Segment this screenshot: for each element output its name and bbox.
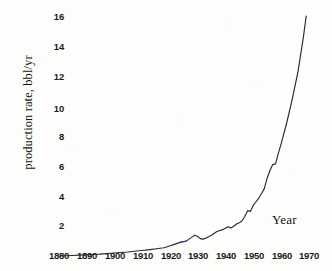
curve-svg <box>0 0 332 271</box>
figure: production rate, bbl/yr 16 14 12 10 8 6 … <box>0 0 332 271</box>
scan-artifact-segment <box>181 241 187 242</box>
plot-area <box>0 0 332 271</box>
production-rate-curve <box>58 16 306 256</box>
